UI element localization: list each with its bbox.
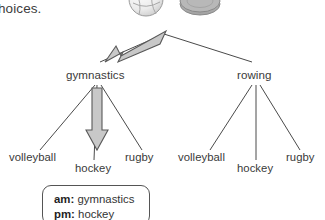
puck-image [180, 0, 220, 15]
tree-leaf-rowing-volleyball: volleyball [178, 151, 225, 163]
callout-am-value: gymnastics [77, 193, 134, 205]
worksheet-figure: hoices. [0, 0, 325, 220]
callout-am-key: am: [54, 193, 74, 205]
gymnastics-edges [40, 85, 142, 160]
tree-leaf-rowing-hockey: hockey [237, 162, 273, 174]
callout-row-am: am: gymnastics [54, 192, 149, 207]
rowing-edges [210, 85, 300, 160]
callout-pm-key: pm: [54, 208, 75, 220]
tree-leaf-gymnastics-rugby: rugby [125, 151, 154, 163]
arrow-to-hockey-icon [86, 88, 108, 150]
tree-node-rowing: rowing [237, 68, 271, 81]
tree-leaf-gymnastics-hockey: hockey [75, 162, 111, 174]
tree-leaf-rowing-rugby: rugby [286, 151, 315, 163]
tree-node-gymnastics: gymnastics [66, 68, 125, 81]
callout-row-pm: pm: hockey [54, 207, 149, 220]
schedule-callout-box: am: gymnastics pm: hockey [42, 185, 150, 220]
tree-leaf-gymnastics-volleyball: volleyball [9, 151, 56, 163]
volleyball-image [129, 0, 163, 16]
callout-pm-value: hockey [78, 208, 114, 220]
